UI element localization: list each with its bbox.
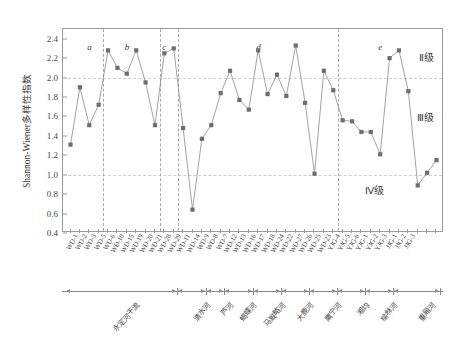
x-tick-mark [201,229,202,233]
data-point-marker [416,183,420,187]
data-point-marker [312,172,316,176]
data-point-marker [181,126,185,130]
y-tick-label: 1.8 [47,92,63,102]
y-tick-label: 2.4 [47,34,63,44]
river-group-label: 永定河干流 [110,300,142,333]
data-point-marker [322,69,326,73]
x-tick-mark [182,229,183,233]
x-tick-mark [135,229,136,233]
y-tick-label: 1.6 [47,111,63,121]
group-arrow-right [332,289,336,293]
data-point-marker [209,123,213,127]
data-point-marker [256,48,260,52]
x-tick-mark [407,229,408,233]
data-point-marker [284,94,288,98]
group-arrow-left [310,289,314,293]
x-tick-mark [70,229,71,233]
data-point-marker [434,158,438,162]
data-point-marker [134,48,138,52]
data-point-marker [359,130,363,134]
x-tick-mark [295,229,296,233]
x-tick-mark [351,229,352,233]
x-tick-mark [98,229,99,233]
river-group-label: 蝎蝶河 [236,300,258,323]
group-arrow-right [248,289,252,293]
series-line [63,29,444,233]
x-tick-mark [332,229,333,233]
river-group-label: 马厩略河 [260,300,287,328]
series-polyline [71,46,437,210]
river-group-label: 大鹿河 [293,300,315,323]
x-tick-mark [267,229,268,233]
group-arrow-left [207,289,211,293]
plot-area: Shannon-Wiener多样性指数 0.40.60.81.01.21.41.… [62,28,443,232]
y-tick-label: 2.2 [47,53,63,63]
y-tick-label: 0.8 [47,189,63,199]
group-arrow-right [304,289,308,293]
x-tick-mark [304,229,305,233]
x-tick-mark [126,229,127,233]
y-tick-label: 1.2 [47,150,63,160]
x-tick-mark [154,229,155,233]
x-tick-mark [276,229,277,233]
data-point-marker [369,130,373,134]
group-arrow-right [435,289,439,293]
data-point-marker [247,108,251,112]
x-tick-mark [398,229,399,233]
x-tick-mark [173,229,174,233]
group-arrow-right [172,289,176,293]
data-point-marker [162,51,166,55]
x-tick-mark [88,229,89,233]
data-point-marker [275,73,279,77]
data-point-marker [331,88,335,92]
river-group-label: 重厢河 [415,300,437,323]
group-arrow-left [66,289,70,293]
data-point-marker [387,56,391,60]
data-point-marker [172,46,176,50]
river-group-label: 芦河 [218,300,236,318]
data-point-marker [350,119,354,123]
x-tick-mark [79,229,80,233]
data-point-marker [97,103,101,107]
data-point-marker [406,89,410,93]
data-point-marker [425,171,429,175]
river-group-labels: 永定河干流清水河芦河蝎蝶河马厩略河大鹿河鹰宁河湘均榆林河重厢河 [62,300,443,342]
x-tick-mark [220,229,221,233]
group-arrow-left [254,289,258,293]
data-point-marker [115,66,119,70]
y-tick-label: 2.0 [47,73,63,83]
x-tick-mark [116,229,117,233]
x-tick-mark [192,229,193,233]
data-point-marker [237,98,241,102]
group-arrow-left [225,289,229,293]
x-tick-mark [389,229,390,233]
x-axis-labels: WD-1WD-2WD-3WD-5WD-6WD-10WD-15WD-19WD-20… [62,233,443,285]
data-point-marker [153,123,157,127]
x-tick-mark [238,229,239,233]
x-tick-mark [229,229,230,233]
group-arrow-left [394,289,398,293]
river-group-label: 榆林河 [377,300,399,323]
x-tick-mark [248,229,249,233]
x-tick-mark [342,229,343,233]
data-point-marker [294,43,298,47]
y-tick-label: 1.0 [47,170,63,180]
x-tick-mark [435,229,436,233]
data-point-marker [143,80,147,84]
x-tick-mark [145,229,146,233]
x-tick-mark [323,229,324,233]
data-point-marker [228,69,232,73]
data-point-marker [341,118,345,122]
x-tick-mark [360,229,361,233]
group-arrow-left [282,289,286,293]
data-point-marker [78,85,82,89]
x-tick-mark [379,229,380,233]
data-point-marker [219,91,223,95]
x-tick-mark [426,229,427,233]
y-tick-label: 1.4 [47,131,63,141]
x-tick-mark [163,229,164,233]
group-arrow-right [388,289,392,293]
data-point-marker [303,101,307,105]
y-axis-title: Shannon-Wiener多样性指数 [19,27,35,235]
x-tick-mark [210,229,211,233]
